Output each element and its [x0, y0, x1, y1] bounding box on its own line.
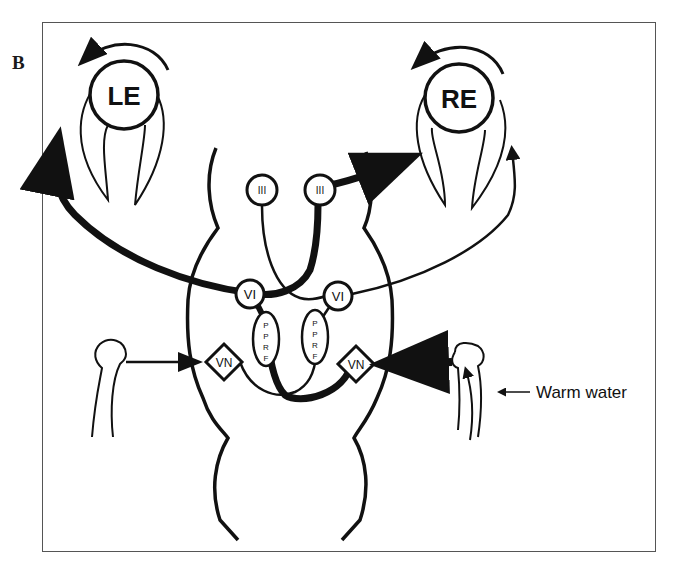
oculomotor-nucleus-left: III	[247, 175, 277, 205]
right-eye: RE	[415, 47, 505, 208]
right-afferent-arrow	[385, 362, 452, 364]
caloric-reflex-diagram: LE RE III III VI VI P	[0, 0, 676, 580]
brainstem-outline-right	[342, 152, 392, 540]
left-semicircular-canal	[92, 340, 198, 437]
abducens-nucleus-right: VI	[324, 282, 352, 310]
svg-text:P: P	[312, 319, 317, 328]
svg-text:P: P	[263, 332, 268, 341]
pprf-left: P P R F	[253, 312, 279, 366]
svg-text:VN: VN	[348, 358, 365, 372]
pprf-right: P P R F	[302, 310, 328, 364]
svg-text:P: P	[312, 330, 317, 339]
svg-text:VN: VN	[216, 356, 233, 370]
svg-text:R: R	[263, 343, 269, 352]
svg-text:III: III	[258, 185, 266, 196]
vestibular-nucleus-left: VN	[206, 344, 242, 380]
svg-text:R: R	[312, 341, 318, 350]
svg-text:P: P	[263, 321, 268, 330]
warm-water-label: Warm water	[536, 383, 627, 402]
right-eye-label: RE	[441, 84, 477, 114]
svg-text:F: F	[313, 352, 318, 361]
left-eye-label: LE	[107, 81, 140, 111]
pathway-left-vi-to-le	[55, 140, 250, 293]
brainstem-outline-left	[188, 148, 238, 540]
svg-text:VI: VI	[332, 289, 344, 304]
right-semicircular-canal	[385, 343, 484, 440]
svg-text:VI: VI	[244, 287, 256, 302]
abducens-nucleus-left: VI	[236, 280, 264, 308]
svg-text:F: F	[264, 354, 269, 363]
left-eye: LE	[81, 44, 168, 205]
svg-text:III: III	[316, 185, 324, 196]
oculomotor-nucleus-right: III	[305, 175, 335, 205]
